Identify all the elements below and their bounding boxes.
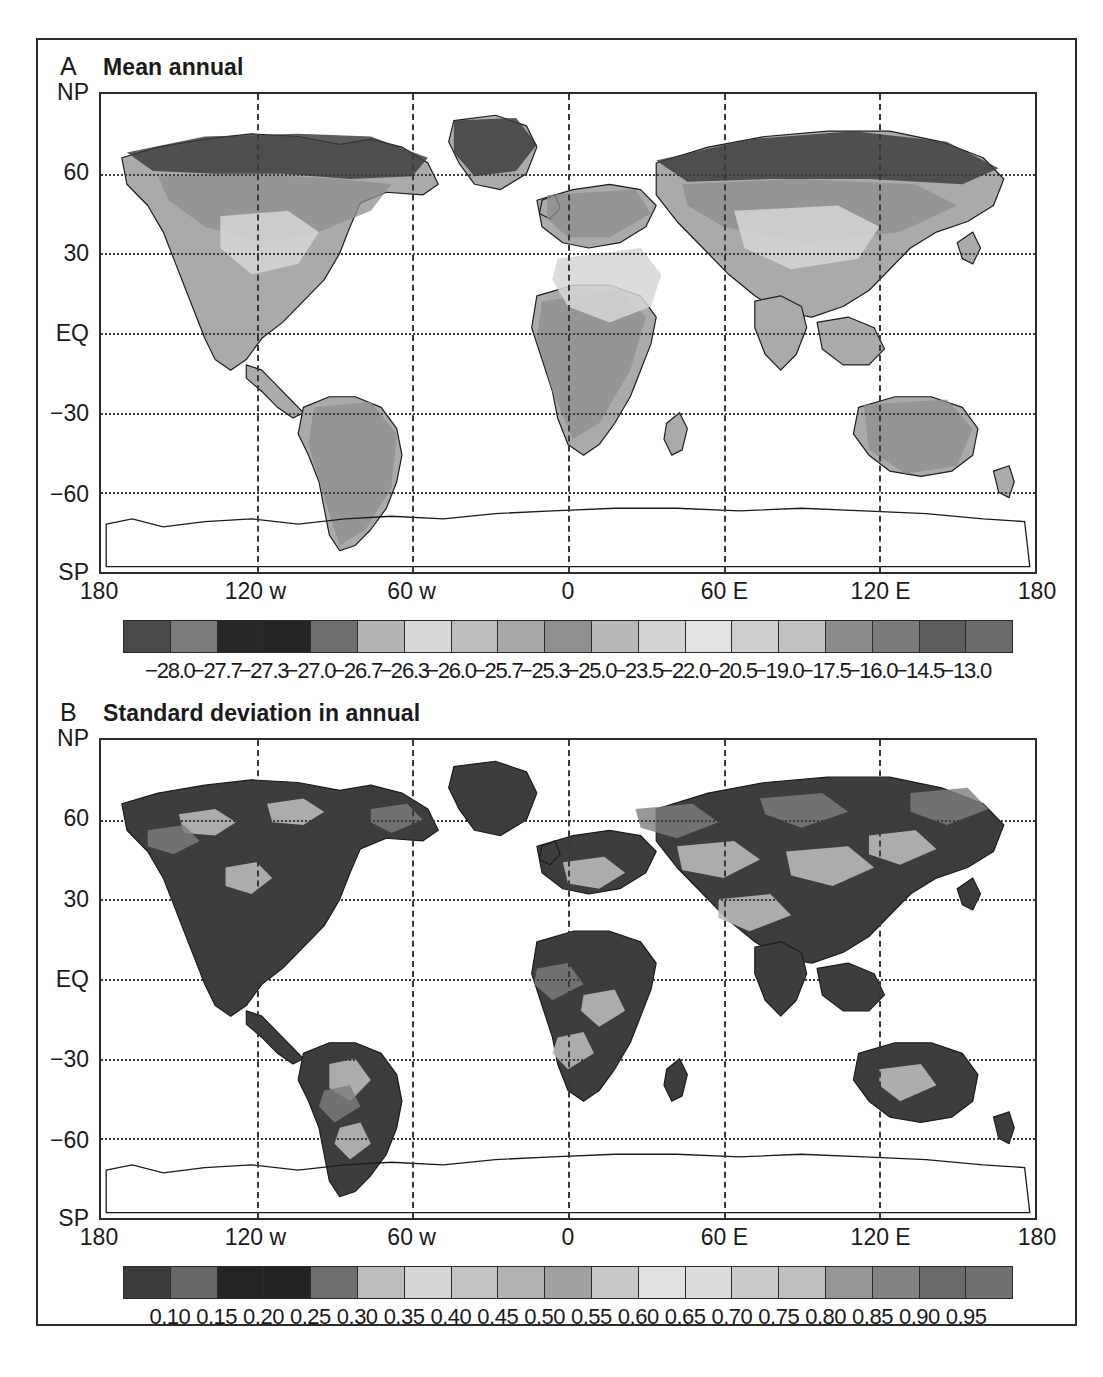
panel-b-colorbar-label-14: 0.80	[805, 1304, 846, 1330]
panel-b-ytick-eq: EQ	[56, 966, 89, 993]
panel-b-xtick-0: 0	[562, 1224, 575, 1251]
panel-b-colorbar-label-9: 0.55	[571, 1304, 612, 1330]
panel-b-colorbar-label-5: 0.35	[384, 1304, 425, 1330]
panel-b-colorbar-cell-13	[732, 1267, 779, 1298]
panel-b-colorbar-label-10: 0.60	[618, 1304, 659, 1330]
panel-a-colorbar-cell-6	[405, 621, 452, 652]
panel-a-colorbar-cell-14	[779, 621, 826, 652]
panel-b-letter: B	[60, 698, 77, 727]
panel-b-colorbar-label-4: 0.30	[337, 1304, 378, 1330]
panel-b-colorbar-label-2: 0.20	[243, 1304, 284, 1330]
panel-b-xtick-120w: 120 w	[225, 1224, 286, 1251]
panel-a-colorbar-cell-7	[452, 621, 499, 652]
panel-b-title: Standard deviation in annual	[103, 700, 420, 727]
panel-a-colorbar-cell-10	[592, 621, 639, 652]
panel-a-ytick-60: 60	[63, 159, 89, 186]
panel-a-colorbar-cell-11	[639, 621, 686, 652]
panel-b-header: B Standard deviation in annual	[60, 698, 420, 727]
panel-b-colorbar-label-15: 0.85	[852, 1304, 893, 1330]
panel-a-map-frame	[99, 92, 1037, 574]
panel-b-colorbar-cell-3	[264, 1267, 311, 1298]
panel-a-colorbar: −28.0−27.7−27.3−27.0−26.7−26.3−26.0−25.7…	[123, 620, 1013, 653]
panel-a-colorbar-label-3: −27.0	[286, 658, 336, 684]
panel-b-colorbar-cell-10	[592, 1267, 639, 1298]
panel-a-title: Mean annual	[103, 54, 243, 81]
panel-b-colorbar-label-12: 0.70	[712, 1304, 753, 1330]
panel-b-ytick-60: 60	[63, 805, 89, 832]
panel-a-colorbar-cell-12	[686, 621, 733, 652]
figure-frame: A Mean annual	[36, 38, 1077, 1326]
panel-b-colorbar-label-8: 0.50	[524, 1304, 565, 1330]
panel-b-ytick-np: NP	[57, 725, 89, 752]
panel-b-colorbar-label-6: 0.40	[430, 1304, 471, 1330]
panel-a-colorbar-cell-18	[966, 621, 1012, 652]
panel-a-colorbar-label-1: −27.7	[192, 658, 242, 684]
panel-b-colorbar-cell-5	[358, 1267, 405, 1298]
panel-b-colorbar-cell-12	[686, 1267, 733, 1298]
panel-a-ytick-30: 30	[63, 239, 89, 266]
panel-a-xtick-120e: 120 E	[851, 578, 911, 605]
panel-b-xtick-60e: 60 E	[701, 1224, 748, 1251]
panel-b-xtick-60w: 60 w	[387, 1224, 436, 1251]
panel-a-colorbar-cell-4	[311, 621, 358, 652]
panel-b-colorbar-label-7: 0.45	[477, 1304, 518, 1330]
panel-a-colorbar-cell-3	[264, 621, 311, 652]
panel-a-colorbar-cell-9	[545, 621, 592, 652]
panel-b-colorbar-cell-4	[311, 1267, 358, 1298]
panel-b-ytick-m60: −60	[50, 1126, 89, 1153]
panel-a-colorbar-label-5: −26.3	[379, 658, 429, 684]
panel-a-xtick-60w: 60 w	[387, 578, 436, 605]
panel-b-colorbar-cell-7	[452, 1267, 499, 1298]
panel-a-ytick-eq: EQ	[56, 320, 89, 347]
panel-b-map-frame	[99, 738, 1037, 1220]
panel-b-colorbar-label-11: 0.65	[665, 1304, 706, 1330]
panel-a-colorbar-cells	[123, 620, 1013, 653]
panel-a-colorbar-label-8: −25.3	[520, 658, 570, 684]
panel-a-colorbar-cell-8	[498, 621, 545, 652]
panel-a-colorbar-label-17: −13.0	[941, 658, 991, 684]
panel-a-header: A Mean annual	[60, 52, 243, 81]
panel-a-colorbar-label-2: −27.3	[239, 658, 289, 684]
panel-b-colorbar-cell-8	[498, 1267, 545, 1298]
panel-a-colorbar-label-11: −22.0	[660, 658, 710, 684]
panel-a-ytick-m60: −60	[50, 480, 89, 507]
panel-a-colorbar-cell-1	[171, 621, 218, 652]
panel-a-letter: A	[60, 52, 77, 81]
panel-a-colorbar-cell-13	[732, 621, 779, 652]
panel-b-colorbar-label-0: 0.10	[149, 1304, 190, 1330]
panel-b-colorbar-labels: 0.100.150.200.250.300.350.400.450.500.55…	[123, 1304, 1013, 1334]
panel-a-xtick-180w: 180	[80, 578, 118, 605]
panel-a-colorbar-labels: −28.0−27.7−27.3−27.0−26.7−26.3−26.0−25.7…	[123, 658, 1013, 688]
panel-b-xtick-180e: 180	[1018, 1224, 1056, 1251]
panel-a-colorbar-cell-17	[920, 621, 967, 652]
panel-b-colorbar-cell-15	[826, 1267, 873, 1298]
panel-a-colorbar-cell-0	[124, 621, 171, 652]
panel-b-colorbar-label-3: 0.25	[290, 1304, 331, 1330]
panel-b-colorbar-cell-0	[124, 1267, 171, 1298]
panel-a-colorbar-cell-16	[873, 621, 920, 652]
panel-b-ytick-30: 30	[63, 885, 89, 912]
panel-a-xtick-180e: 180	[1018, 578, 1056, 605]
panel-b-xtick-180w: 180	[80, 1224, 118, 1251]
panel-b-colorbar-label-13: 0.75	[758, 1304, 799, 1330]
panel-a-colorbar-label-12: −20.5	[707, 658, 757, 684]
panel-b-colorbar-cell-18	[966, 1267, 1012, 1298]
panel-a-colorbar-cell-15	[826, 621, 873, 652]
panel-b-colorbar-cell-11	[639, 1267, 686, 1298]
panel-a-colorbar-label-9: −25.0	[567, 658, 617, 684]
panel-a-colorbar-label-10: −23.5	[613, 658, 663, 684]
panel-a-colorbar-label-6: −26.0	[426, 658, 476, 684]
panel-a-colorbar-label-4: −26.7	[332, 658, 382, 684]
panel-b-map: NP 60 30 EQ −30 −60 SP 180 120 w 60 w 0 …	[99, 738, 1037, 1220]
panel-a-ytick-m30: −30	[50, 400, 89, 427]
panel-b-colorbar-cell-1	[171, 1267, 218, 1298]
panel-a-colorbar-label-14: −17.5	[801, 658, 851, 684]
panel-a-colorbar-label-16: −14.5	[894, 658, 944, 684]
panel-a-colorbar-label-7: −25.7	[473, 658, 523, 684]
panel-a-colorbar-cell-2	[218, 621, 265, 652]
panel-a-colorbar-label-15: −16.0	[848, 658, 898, 684]
panel-b-xtick-120e: 120 E	[851, 1224, 911, 1251]
panel-a-xtick-0: 0	[562, 578, 575, 605]
panel-b-colorbar-cell-14	[779, 1267, 826, 1298]
panel-b-colorbar-cells	[123, 1266, 1013, 1299]
